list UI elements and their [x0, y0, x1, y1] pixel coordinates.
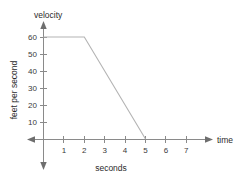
x-axis-right-arrow-icon [205, 136, 213, 142]
x-tick-label: 4 [123, 146, 128, 155]
x-tick-label: 2 [82, 146, 87, 155]
y-tick-label: 60 [28, 33, 37, 42]
x-axis-title: time [217, 135, 233, 145]
y-tick-label: 10 [28, 118, 37, 127]
y-tick-label: 30 [28, 84, 37, 93]
velocity-series-line [44, 37, 146, 139]
y-tick-label: 40 [28, 67, 37, 76]
x-tick-label: 1 [62, 146, 67, 155]
chart-plot-area: 1 2 3 4 5 6 7 10 20 30 40 50 60 velocity… [0, 0, 235, 177]
velocity-time-chart-figure: 1 2 3 4 5 6 7 10 20 30 40 50 60 velocity… [0, 0, 235, 177]
x-axis-left-arrow-icon [27, 136, 35, 142]
y-tick-label: 50 [28, 50, 37, 59]
x-tick-label: 7 [184, 146, 189, 155]
y-tick-label: 20 [28, 101, 37, 110]
y-axis-unit-label: feet per second [9, 60, 19, 119]
y-axis-down-arrow-icon [40, 162, 46, 170]
y-axis-up-arrow-icon [40, 21, 46, 29]
x-tick-label: 3 [102, 146, 107, 155]
x-axis-unit-label: seconds [95, 163, 127, 173]
y-axis-title: velocity [34, 10, 63, 20]
x-tick-label: 6 [164, 146, 169, 155]
x-tick-label: 5 [143, 146, 148, 155]
